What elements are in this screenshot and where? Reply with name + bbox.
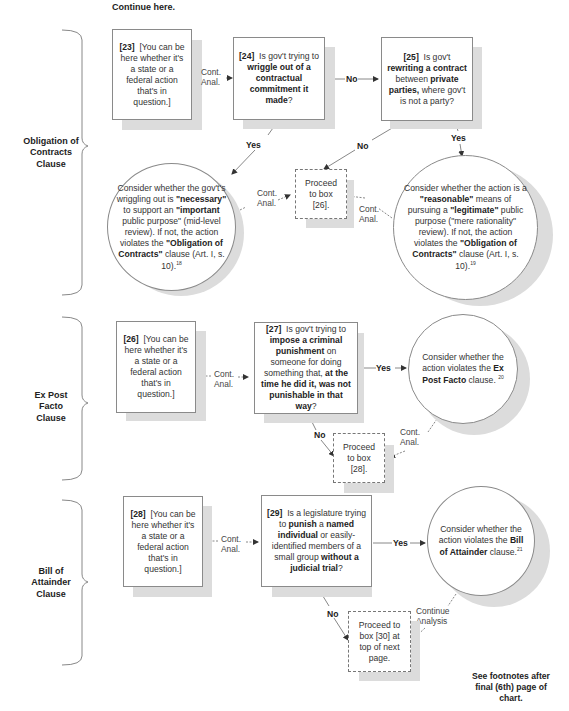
footnote-reference: See footnotes after final (6th) page of … [465,671,557,705]
edge-label-yes: Yes [376,363,391,373]
edge-label-circle-proceed: Cont.Anal. [257,189,277,208]
box-27: [27] Is gov't trying to impose a crimina… [254,322,358,414]
section-label-obligation-of-contracts: Obligation ofContractsClause [18,136,84,170]
box-29: [29] Is a legislature trying to punish a… [261,495,372,587]
edge-label-yes: Yes [393,538,408,548]
edge-label-no: No [327,609,338,619]
edge-label-no: No [357,141,368,151]
box-28: [28] [You can be here whether it's a sta… [123,496,203,587]
proceed-box-30: Proceed to box [30] at top of next page. [348,611,411,672]
edge-label-26-27: Cont.Anal. [214,370,234,389]
edge-label-23-24: Cont.Anal. [201,68,221,87]
edge-label-yes: Yes [246,140,261,150]
proceed-box-28: Proceed to box [28]. [333,433,385,483]
circle-ex-post-facto: Consider whether the action violates the… [408,314,518,424]
box-25: [25] Is gov't rewriting a contract betwe… [381,37,473,121]
box-23: [23] [You can be here whether it's a sta… [112,29,192,120]
edge-label-circle-proceed: Cont.Anal. [359,205,379,224]
edge-label-continue-analysis: ContinueAnalysis [416,607,450,626]
proceed-box-26: Proceed to box [26]. [295,169,347,219]
circle-bill-of-attainder: Consider whether the action violates the… [427,486,535,596]
box-26: [26] [You can be here whether it's a sta… [116,321,196,413]
circle-necessary-review: Consider whether the gov't's wriggling o… [107,163,236,291]
edge-label-circle-proceed: Cont.Anal. [400,428,420,447]
section-label-bill-of-attainder: Bill ofAttainderClause [18,566,84,600]
section-label-ex-post-facto: Ex PostFactoClause [18,390,84,424]
edge-label-no: No [314,430,325,440]
box-24: [24] Is gov't trying to wriggle out of a… [233,37,325,120]
edge-label-28-29: Cont.Anal. [221,535,241,554]
edge-label-yes: Yes [451,133,466,143]
edge-label-no: No [346,74,357,84]
circle-rationality-review: Consider whether the action is a "reason… [393,155,538,300]
